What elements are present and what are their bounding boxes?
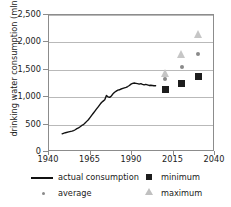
legend-swatch-minimum <box>146 174 152 180</box>
legend-label-minimum: minimum <box>161 173 200 181</box>
legend-swatch-actual-consumption <box>31 177 53 179</box>
data-point-minimum <box>178 80 185 87</box>
plot-area <box>48 14 214 151</box>
x-tick-label: 2040 <box>194 155 231 163</box>
legend-swatch-maximum <box>145 188 153 195</box>
y-tick-label: 1,500 <box>0 65 41 73</box>
actual-consumption-line <box>49 15 213 150</box>
legend-swatch-average <box>42 192 45 195</box>
x-axis-labels: 19401965199020152040 <box>0 155 231 169</box>
legend-label-actual-consumption: actual consumption <box>58 173 139 181</box>
data-point-maximum <box>194 30 202 38</box>
x-tick-label: 2015 <box>153 155 193 163</box>
y-tick-label: 0 <box>0 147 41 155</box>
y-tick-label: 2,000 <box>0 37 41 45</box>
chart-legend: actual consumption minimum average maxim… <box>0 171 231 207</box>
data-point-minimum <box>195 73 202 80</box>
y-tick-label: 2,500 <box>0 10 41 18</box>
legend-label-maximum: maximum <box>161 189 202 197</box>
y-tick-label: 1,000 <box>0 92 41 100</box>
x-tick-label: 1940 <box>28 155 68 163</box>
x-tick-label: 1990 <box>111 155 151 163</box>
x-tick-label: 1965 <box>70 155 110 163</box>
data-point-minimum <box>162 86 169 93</box>
y-tick-label: 500 <box>0 120 41 128</box>
data-point-maximum <box>177 50 185 58</box>
data-point-maximum <box>161 69 169 77</box>
legend-label-average: average <box>58 189 92 197</box>
chart-container: drinking water consumption (mln m3/y) 05… <box>0 0 231 207</box>
